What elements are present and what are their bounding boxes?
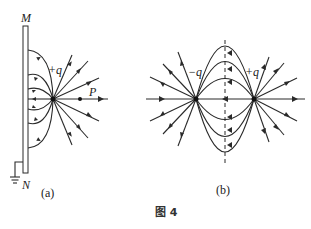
charge-positive-b <box>252 97 257 102</box>
conducting-plate <box>23 26 28 173</box>
charge-negative-b <box>194 97 199 102</box>
physics-figure: M N <box>0 0 311 229</box>
figure-caption: 图 4 <box>155 206 178 219</box>
panel-b: −q +q (b) <box>146 40 305 197</box>
plate-label-m: M <box>20 11 32 25</box>
charge-label-a: +q <box>48 63 62 77</box>
plate-label-n: N <box>21 178 31 192</box>
panel-b-sublabel: (b) <box>216 183 230 197</box>
panel-a: M N <box>10 11 108 200</box>
charge-label-positive: +q <box>245 65 259 79</box>
point-p <box>78 97 82 101</box>
panel-a-sublabel: (a) <box>41 186 54 200</box>
charge-positive-a <box>51 97 56 102</box>
charge-label-negative: −q <box>188 65 202 79</box>
point-p-label: P <box>88 85 97 99</box>
